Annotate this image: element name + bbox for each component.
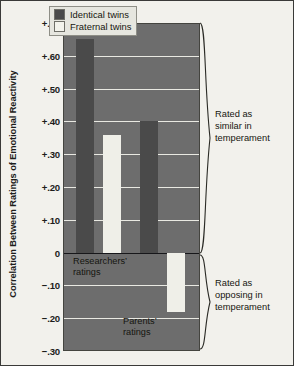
brace-opposing-icon <box>199 253 213 351</box>
annotation-opposing-line3: temperament <box>215 301 270 313</box>
legend-swatch-fraternal-icon <box>54 21 65 32</box>
group-label-parents-line1: Parents’ <box>123 316 157 327</box>
group-label-parents-line2: ratings <box>123 327 157 338</box>
y-tick-4: +.30 <box>42 149 60 160</box>
y-axis-tick-labels: +.70 +.60 +.50 +.40 +.30 +.20 +.10 0 −.1… <box>21 1 63 366</box>
bar-identical-parents <box>140 121 158 252</box>
y-tick-10: −.30 <box>42 346 60 357</box>
y-tick-7: 0 <box>55 247 60 258</box>
bar-identical-researchers <box>76 39 94 252</box>
plot-area: Researchers’ ratings Parents’ ratings <box>63 23 200 351</box>
group-label-researchers-line1: Researchers’ <box>73 256 127 267</box>
bar-fraternal-researchers <box>103 135 121 253</box>
legend-item-identical: Identical twins <box>54 9 131 20</box>
brace-similar-icon <box>199 21 213 255</box>
group-label-parents: Parents’ ratings <box>123 316 157 339</box>
group-label-researchers: Researchers’ ratings <box>73 256 127 279</box>
annotation-similar-line3: temperament <box>215 132 270 144</box>
annotation-similar-line2: similar in <box>215 120 270 132</box>
y-axis-title-text: Correlation Between Ratings of Emotional… <box>8 70 18 297</box>
annotation-opposing-line2: opposing in <box>215 289 270 301</box>
legend-label-fraternal: Fraternal twins <box>70 21 131 32</box>
y-tick-9: −.20 <box>42 313 60 324</box>
chart-legend: Identical twins Fraternal twins <box>49 6 137 36</box>
y-axis-title: Correlation Between Ratings of Emotional… <box>3 1 23 366</box>
y-tick-6: +.10 <box>42 214 60 225</box>
legend-swatch-identical-icon <box>54 9 65 20</box>
annotation-opposing-line1: Rated as <box>215 277 270 289</box>
group-label-researchers-line2: ratings <box>73 267 127 278</box>
legend-label-identical: Identical twins <box>70 9 129 20</box>
chart-figure: Correlation Between Ratings of Emotional… <box>0 0 294 366</box>
y-tick-1: +.60 <box>42 50 60 61</box>
annotation-opposing: Rated as opposing in temperament <box>215 277 270 314</box>
y-tick-2: +.50 <box>42 83 60 94</box>
y-tick-8: −.10 <box>42 280 60 291</box>
legend-item-fraternal: Fraternal twins <box>54 21 131 32</box>
bar-fraternal-parents <box>167 253 185 312</box>
annotation-similar-line1: Rated as <box>215 108 270 120</box>
annotation-similar: Rated as similar in temperament <box>215 108 270 145</box>
y-tick-5: +.20 <box>42 182 60 193</box>
y-tick-3: +.40 <box>42 116 60 127</box>
